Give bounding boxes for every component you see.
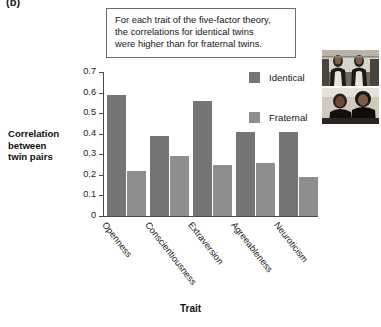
x-axis-line (103, 216, 318, 217)
bar-fraternal-agreeableness (256, 163, 275, 216)
y-axis-title: Correlation between twin pairs (8, 128, 86, 163)
chart-plot: 0.70.60.50.40.30.20.10 OpennessConscient… (0, 0, 381, 327)
x-axis-label-agreeableness: Agreeableness (229, 220, 275, 274)
figure-panel: (b) For each trait of the five-factor th… (0, 0, 381, 327)
legend-item-fraternal: Fraternal (249, 112, 307, 123)
bar-fraternal-extraversion (213, 165, 232, 216)
legend-item-identical: Identical (249, 72, 305, 83)
legend-swatch-fraternal (249, 112, 260, 123)
x-axis-label-extraversion: Extraversion (186, 220, 225, 266)
bar-identical-extraversion (193, 101, 212, 216)
x-axis-title: Trait (0, 303, 381, 314)
bar-fraternal-neuroticism (299, 177, 318, 216)
x-axis-label-neuroticism: Neuroticism (272, 220, 310, 264)
x-axis-label-openness: Openness (100, 220, 134, 259)
legend-label-identical: Identical (269, 72, 305, 83)
bar-identical-conscientiousness (150, 136, 169, 216)
y-tick-mark (99, 216, 104, 217)
legend-swatch-identical (249, 72, 260, 83)
legend-label-fraternal: Fraternal (269, 112, 307, 123)
bar-identical-neuroticism (279, 132, 298, 216)
bar-identical-openness (107, 95, 126, 216)
bar-identical-agreeableness (236, 132, 255, 216)
bars-layer (0, 0, 381, 216)
bar-fraternal-conscientiousness (170, 156, 189, 216)
y-axis-title-line-2: between (8, 140, 86, 152)
bar-fraternal-openness (127, 171, 146, 216)
y-axis-title-line-1: Correlation (8, 128, 86, 140)
y-axis-title-line-3: twin pairs (8, 151, 86, 163)
